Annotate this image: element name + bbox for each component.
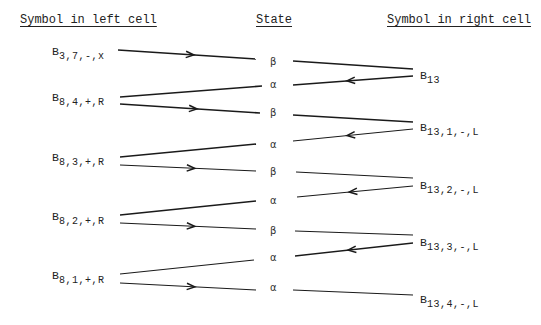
symbol-subscript: 8,3,+,R [59,157,105,168]
transition-line [293,290,413,295]
transition-line [120,201,256,215]
symbol-subscript: 8,4,+,R [59,97,105,108]
transition-line [296,172,413,178]
transition-line [293,129,413,141]
transition-line [297,186,413,197]
state-alpha: α [270,195,277,206]
symbol-subscript: 13,1,-,L [427,127,479,138]
state-beta: β [270,56,276,67]
state-beta: β [270,225,276,236]
state-beta: β [270,107,276,118]
symbol-subscript: 13 [427,75,440,86]
right-symbol: B13,4,-,L [420,293,479,310]
left-symbol: B8,1,+,R [52,269,105,286]
state-alpha: α [270,282,277,293]
left-symbol: B8,3,+,R [52,151,105,168]
symbol-subscript: 3,7,-,x [59,51,105,62]
right-symbol: B13,1,-,L [420,121,479,138]
state-alpha: α [270,252,277,263]
transition-line [293,115,413,122]
left-symbol: B8,4,+,R [52,91,105,108]
symbol-subscript: 13,4,-,L [427,299,479,310]
transition-line [120,86,262,97]
left-symbol: B3,7,-,x [52,45,105,62]
right-symbol: B13 [420,69,440,86]
state-alpha: α [270,79,277,90]
transition-line [293,61,413,69]
transition-line [120,260,254,274]
transition-line [295,231,413,235]
symbol-subscript: 8,2,+,R [59,216,105,227]
state-beta: β [270,166,276,177]
state-alpha: α [270,139,277,150]
transition-line [295,243,413,256]
symbol-subscript: 13,3,-,L [427,242,479,253]
left-symbol: B8,2,+,R [52,210,105,227]
right-symbol: B13,2,-,L [420,179,479,196]
symbol-subscript: 13,2,-,L [427,185,479,196]
transition-line [120,144,256,157]
right-symbol: B13,3,-,L [420,236,479,253]
symbol-subscript: 8,1,+,R [59,275,105,286]
